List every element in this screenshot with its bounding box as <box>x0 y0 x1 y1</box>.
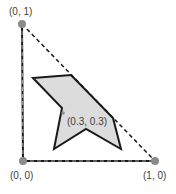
centroid-label: (0.3, 0.3) <box>67 116 107 127</box>
vertex-top-dot <box>18 20 26 28</box>
left-edge <box>22 24 23 161</box>
vertex-top-label: (0, 1) <box>9 6 32 17</box>
vertex-origin-dot <box>19 157 27 165</box>
simplex-diagram: (0, 1) (0, 0) (1, 0) (0.3, 0.3) <box>0 0 176 194</box>
vertex-right-label: (1, 0) <box>143 170 166 181</box>
centroid-dot <box>61 111 65 115</box>
vertex-right-dot <box>151 157 159 165</box>
vertex-origin-label: (0, 0) <box>10 170 33 181</box>
